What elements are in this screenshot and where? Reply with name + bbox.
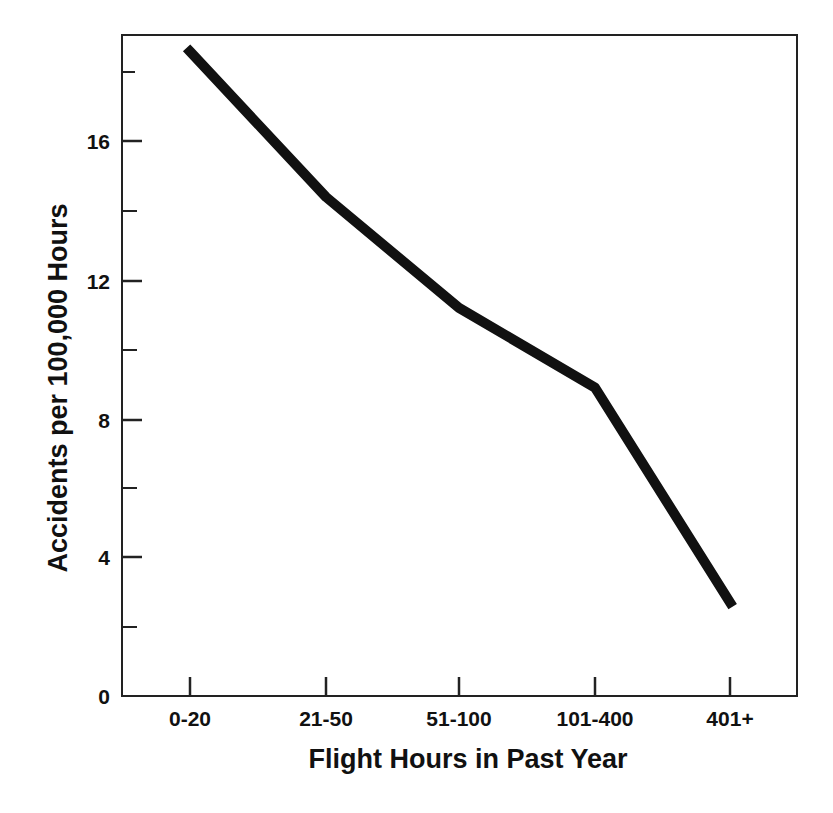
accident-rate-line	[190, 52, 730, 603]
x-tick-label-0-20: 0-20	[169, 707, 211, 730]
y-tick-label-0: 0	[98, 685, 110, 708]
plot-frame	[122, 35, 797, 696]
x-tick-label-21-50: 21-50	[299, 707, 353, 730]
x-axis-title: Flight Hours in Past Year	[308, 744, 628, 774]
y-axis-title: Accidents per 100,000 Hours	[43, 203, 73, 572]
x-axis: 0-20 21-50 51-100 101-400 401+	[169, 677, 754, 730]
x-tick-label-51-100: 51-100	[426, 707, 491, 730]
y-tick-label-8: 8	[98, 409, 110, 432]
x-tick-label-401-plus: 401+	[706, 707, 753, 730]
y-tick-label-4: 4	[98, 546, 110, 569]
y-axis: 0 4 8 12 16	[87, 72, 142, 708]
y-tick-label-12: 12	[87, 270, 110, 293]
x-tick-label-101-400: 101-400	[556, 707, 633, 730]
line-chart: 0 4 8 12 16 0-20 21-50 51-100 101-400 40…	[0, 0, 833, 813]
y-tick-label-16: 16	[87, 130, 110, 153]
